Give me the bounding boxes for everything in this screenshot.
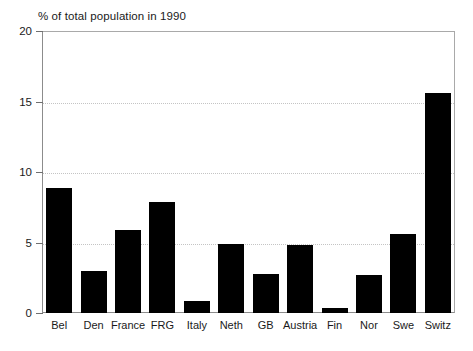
y-axis-label-5: 5 bbox=[0, 237, 32, 249]
bar-italy bbox=[184, 301, 210, 313]
y-axis-label-15: 15 bbox=[0, 96, 32, 108]
bar-den bbox=[81, 271, 107, 313]
bar-austria bbox=[287, 245, 313, 313]
y-axis-label-0: 0 bbox=[0, 307, 32, 319]
bar-france bbox=[115, 230, 141, 313]
y-axis-tick-5 bbox=[36, 243, 43, 244]
y-axis-tick-20 bbox=[36, 31, 43, 32]
bar-frg bbox=[149, 202, 175, 313]
bar-gb bbox=[253, 274, 279, 313]
bar-nor bbox=[356, 275, 382, 313]
y-axis-label-20: 20 bbox=[0, 25, 32, 37]
chart-title: % of total population in 1990 bbox=[38, 9, 186, 23]
bar-neth bbox=[218, 244, 244, 313]
y-axis-label-10: 10 bbox=[0, 166, 32, 178]
y-axis-tick-0 bbox=[36, 313, 43, 314]
gridline-10 bbox=[43, 173, 454, 174]
x-axis-label-switz: Switz bbox=[415, 319, 461, 332]
bar-swe bbox=[390, 234, 416, 313]
y-axis-tick-15 bbox=[36, 102, 43, 103]
y-axis-tick-10 bbox=[36, 172, 43, 173]
bar-fin bbox=[322, 308, 348, 313]
gridline-15 bbox=[43, 103, 454, 104]
bar-switz bbox=[425, 93, 451, 313]
bar-bel bbox=[46, 188, 72, 313]
bar-chart-figure: % of total population in 1990 05101520 B… bbox=[0, 0, 473, 351]
